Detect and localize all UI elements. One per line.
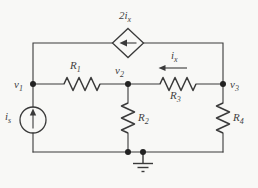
label-resistor-R1: R1 <box>69 59 81 74</box>
resistor-R1-zigzag <box>64 78 100 91</box>
label-resistor-R4: R4 <box>232 111 244 126</box>
label-resistor-R3: R3 <box>169 89 181 104</box>
dependent-current-source <box>113 29 144 58</box>
label-ix-current: ix <box>171 49 178 64</box>
source-arrow-head <box>30 109 36 116</box>
resistor-R3-zigzag <box>160 78 196 91</box>
ix-arrow-head <box>159 65 166 71</box>
circuit-figure: 2ix v1 v2 v3 R1 R2 R3 R4 ix is <box>0 0 258 188</box>
label-resistor-R2: R2 <box>137 111 149 126</box>
node-dot-v3 <box>220 81 226 87</box>
node-dot-rail-left <box>125 149 131 155</box>
circuit-diagram: 2ix v1 v2 v3 R1 R2 R3 R4 ix is <box>0 0 258 188</box>
wire-topright <box>144 43 224 84</box>
dependent-source-arrow-head <box>120 40 128 47</box>
label-dependent-source: 2ix <box>119 9 132 24</box>
wires <box>33 43 223 152</box>
label-node-v3: v3 <box>230 78 239 93</box>
label-node-v2: v2 <box>115 64 124 79</box>
resistor-R4-zigzag <box>217 103 230 133</box>
label-independent-source: is <box>5 110 11 125</box>
label-node-v1: v1 <box>14 78 23 93</box>
independent-current-source <box>20 107 46 133</box>
node-dot-rail-ground <box>140 149 146 155</box>
node-dot-v1 <box>30 81 36 87</box>
node-dot-v2 <box>125 81 131 87</box>
ix-current-arrow <box>159 65 188 71</box>
resistor-R2-zigzag <box>122 103 135 133</box>
